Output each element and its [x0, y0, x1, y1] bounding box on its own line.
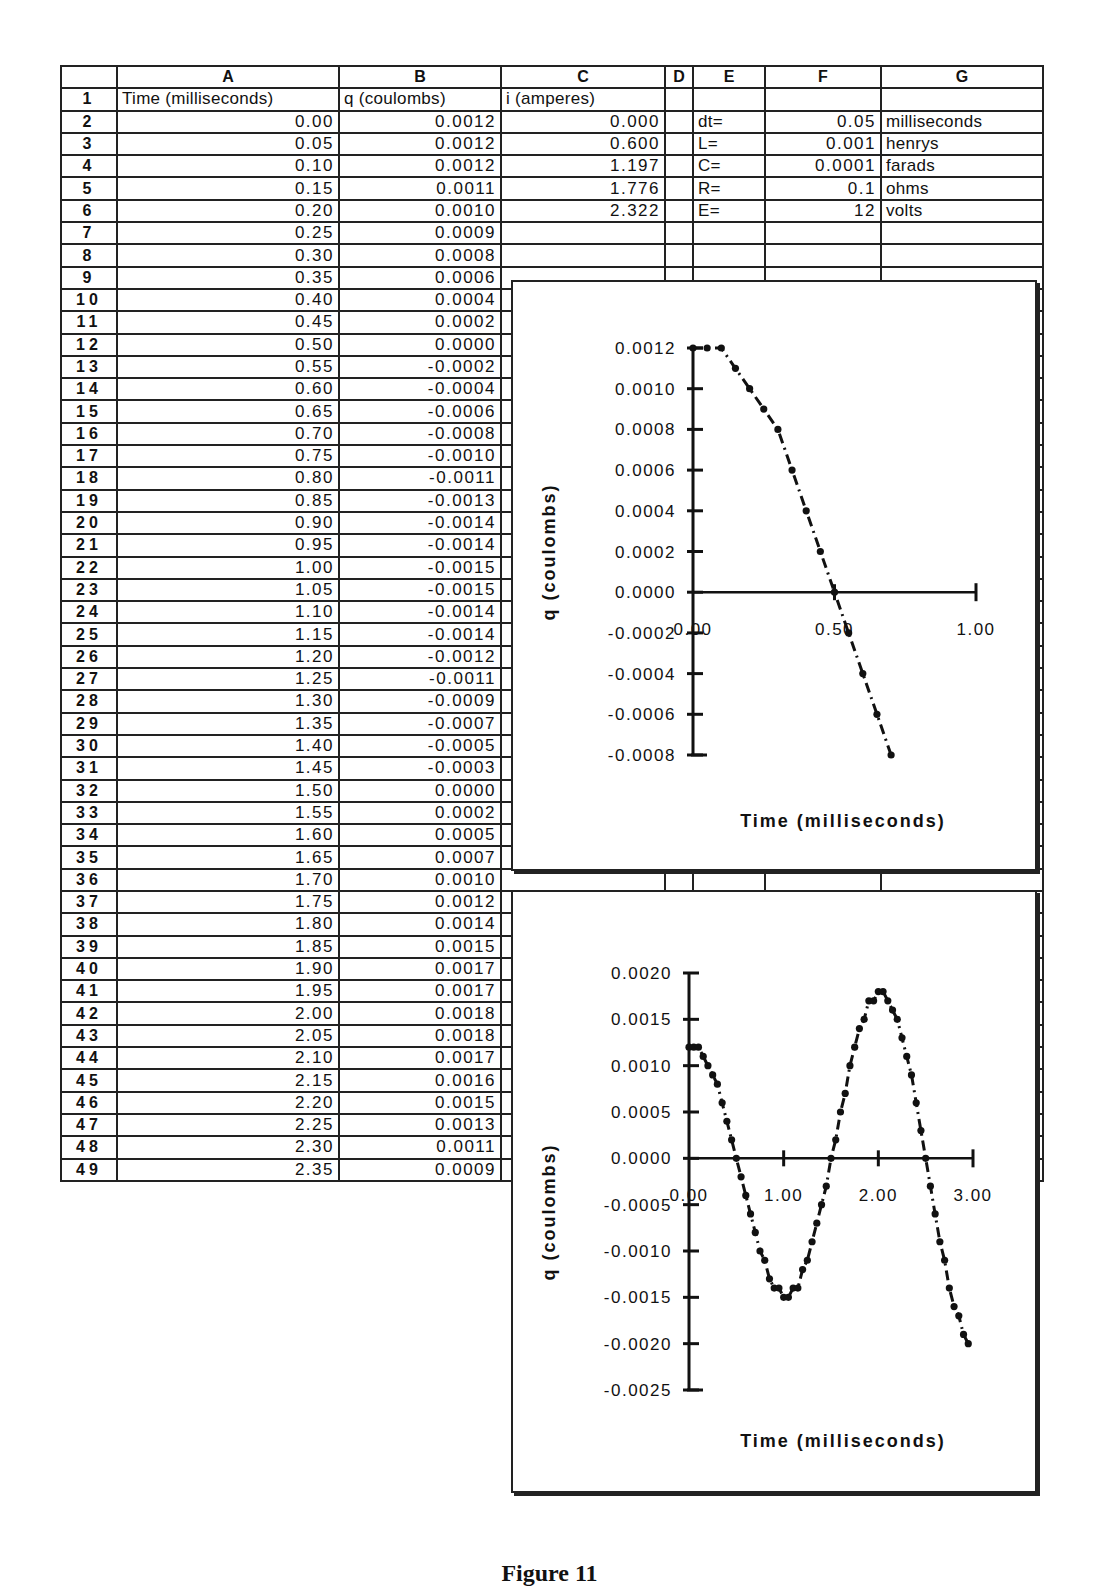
column-header-c[interactable]: C	[501, 66, 665, 88]
cell-charge[interactable]: 0.0017	[339, 958, 501, 980]
cell-charge[interactable]: 0.0015	[339, 936, 501, 958]
cell-time[interactable]: 0.05	[117, 133, 339, 155]
cell-time[interactable]: 0.40	[117, 289, 339, 311]
cell-time[interactable]: 1.60	[117, 824, 339, 846]
cell-time[interactable]: 0.30	[117, 244, 339, 266]
row-header[interactable]: 23	[61, 579, 117, 601]
row-header[interactable]: 38	[61, 913, 117, 935]
cell-time[interactable]: 1.30	[117, 690, 339, 712]
cell-d[interactable]	[665, 177, 693, 199]
param-label[interactable]: C=	[693, 155, 765, 177]
param-label[interactable]: L=	[693, 133, 765, 155]
cell-empty[interactable]	[765, 88, 881, 110]
param-value[interactable]: 0.001	[765, 133, 881, 155]
cell-time[interactable]: 2.00	[117, 1002, 339, 1024]
cell-charge[interactable]: 0.0008	[339, 244, 501, 266]
cell-time[interactable]: 2.15	[117, 1069, 339, 1091]
cell-time[interactable]: 1.65	[117, 846, 339, 868]
row-header[interactable]: 14	[61, 378, 117, 400]
row-header[interactable]: 11	[61, 311, 117, 333]
cell-charge[interactable]: -0.0011	[339, 467, 501, 489]
cell-current[interactable]: 0.600	[501, 133, 665, 155]
cell-charge[interactable]: -0.0015	[339, 557, 501, 579]
cell-time[interactable]: 1.40	[117, 735, 339, 757]
cell-charge[interactable]: 0.0017	[339, 980, 501, 1002]
row-header[interactable]: 31	[61, 757, 117, 779]
cell-charge[interactable]: 0.0018	[339, 1025, 501, 1047]
cell-charge[interactable]: 0.0006	[339, 267, 501, 289]
cell-current[interactable]: 1.197	[501, 155, 665, 177]
row-header[interactable]: 46	[61, 1092, 117, 1114]
cell-time[interactable]: 0.50	[117, 334, 339, 356]
cell-charge[interactable]: 0.0012	[339, 111, 501, 133]
cell-charge[interactable]: -0.0011	[339, 668, 501, 690]
cell-charge[interactable]: 0.0002	[339, 802, 501, 824]
cell-time[interactable]: 1.35	[117, 713, 339, 735]
cell-charge[interactable]: 0.0000	[339, 780, 501, 802]
cell-time[interactable]: 0.55	[117, 356, 339, 378]
cell-time[interactable]: 0.75	[117, 445, 339, 467]
cell-time[interactable]: 0.90	[117, 512, 339, 534]
cell-current[interactable]	[501, 222, 665, 244]
cell-empty[interactable]	[765, 244, 881, 266]
cell-time[interactable]: 1.75	[117, 891, 339, 913]
row-header[interactable]: 10	[61, 289, 117, 311]
row-header[interactable]: 37	[61, 891, 117, 913]
column-header-g[interactable]: G	[881, 66, 1043, 88]
row-header[interactable]: 30	[61, 735, 117, 757]
cell-charge[interactable]: 0.0007	[339, 846, 501, 868]
row-header[interactable]: 35	[61, 846, 117, 868]
param-value[interactable]: 0.0001	[765, 155, 881, 177]
cell-charge[interactable]: 0.0016	[339, 1069, 501, 1091]
cell-time[interactable]: 2.20	[117, 1092, 339, 1114]
cell-charge[interactable]: -0.0005	[339, 735, 501, 757]
row-header[interactable]: 48	[61, 1136, 117, 1158]
cell-empty[interactable]	[881, 88, 1043, 110]
row-header[interactable]: 29	[61, 713, 117, 735]
cell-charge[interactable]: -0.0002	[339, 356, 501, 378]
cell-empty[interactable]	[881, 869, 1043, 891]
row-header[interactable]: 26	[61, 646, 117, 668]
cell-empty[interactable]	[693, 88, 765, 110]
cell-d[interactable]	[665, 200, 693, 222]
cell-charge[interactable]: 0.0009	[339, 222, 501, 244]
cell-current[interactable]	[501, 869, 665, 891]
cell-charge[interactable]: 0.0014	[339, 913, 501, 935]
cell-time[interactable]: 2.35	[117, 1159, 339, 1181]
cell-charge[interactable]: 0.0011	[339, 177, 501, 199]
cell-charge[interactable]: 0.0010	[339, 200, 501, 222]
row-header[interactable]: 7	[61, 222, 117, 244]
cell-d[interactable]	[665, 155, 693, 177]
cell-empty[interactable]	[693, 222, 765, 244]
cell-time[interactable]: 1.25	[117, 668, 339, 690]
cell-charge[interactable]: 0.0010	[339, 869, 501, 891]
cell-charge[interactable]: 0.0018	[339, 1002, 501, 1024]
row-header[interactable]: 5	[61, 177, 117, 199]
cell-d[interactable]	[665, 133, 693, 155]
cell-charge[interactable]: 0.0005	[339, 824, 501, 846]
cell-charge[interactable]: -0.0008	[339, 423, 501, 445]
cell-empty[interactable]	[765, 869, 881, 891]
cell-charge[interactable]: -0.0004	[339, 378, 501, 400]
cell-charge[interactable]: -0.0003	[339, 757, 501, 779]
row-header[interactable]: 2	[61, 111, 117, 133]
row-header[interactable]: 47	[61, 1114, 117, 1136]
cell-charge[interactable]: 0.0012	[339, 891, 501, 913]
row-header[interactable]: 49	[61, 1159, 117, 1181]
cell-charge[interactable]: 0.0015	[339, 1092, 501, 1114]
cell-d[interactable]	[665, 244, 693, 266]
row-header[interactable]: 28	[61, 690, 117, 712]
row-header[interactable]: 40	[61, 958, 117, 980]
row-header[interactable]: 25	[61, 623, 117, 645]
cell-time[interactable]: 1.10	[117, 601, 339, 623]
cell-empty[interactable]	[881, 222, 1043, 244]
cell-time[interactable]: 1.95	[117, 980, 339, 1002]
row-header[interactable]: 33	[61, 802, 117, 824]
cell-time[interactable]: 1.70	[117, 869, 339, 891]
cell-time[interactable]: 0.70	[117, 423, 339, 445]
cell-time[interactable]: 0.15	[117, 177, 339, 199]
cell-time[interactable]: 1.45	[117, 757, 339, 779]
cell-time[interactable]: 0.10	[117, 155, 339, 177]
cell-charge[interactable]: -0.0007	[339, 713, 501, 735]
row-header[interactable]: 32	[61, 780, 117, 802]
